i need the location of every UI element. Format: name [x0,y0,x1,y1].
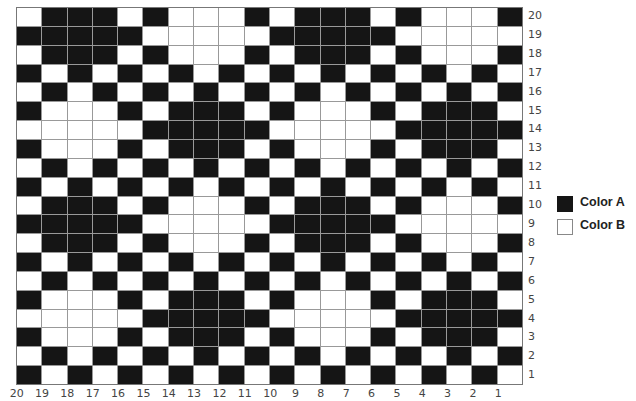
chart-cell [219,366,243,384]
chart-cell [143,159,167,177]
chart-cell [498,159,522,177]
chart-cell [219,310,243,328]
chart-cell [472,234,496,252]
chart-cell [194,215,218,233]
chart-cell [42,121,66,139]
chart-cell [219,347,243,365]
column-label: 19 [29,386,54,401]
chart-cell [93,159,117,177]
chart-cell [498,366,522,384]
chart-cell [245,328,269,346]
chart-cell [68,8,92,26]
row-label: 10 [528,196,552,215]
chart-cell [169,178,193,196]
chart-cell [498,121,522,139]
chart-cell [245,46,269,64]
chart-cell [42,215,66,233]
chart-cell [143,121,167,139]
chart-cell [68,291,92,309]
chart-cell [93,253,117,271]
chart-cell [422,8,446,26]
chart-cell [321,234,345,252]
chart-cell [396,234,420,252]
chart-cell [219,65,243,83]
chart-cell [447,102,471,120]
chart-cell [118,234,142,252]
chart-cell [245,215,269,233]
chart-cell [295,272,319,290]
chart-cell [68,366,92,384]
chart-cell [194,83,218,101]
chart-cell [194,366,218,384]
chart-cell [371,310,395,328]
chart-cell [118,178,142,196]
chart-cell [472,140,496,158]
chart-cell [219,83,243,101]
chart-cell [295,253,319,271]
chart-cell [93,46,117,64]
chart-cell [42,27,66,45]
chart-cell [371,140,395,158]
chart-cell [143,102,167,120]
column-label: 1 [486,386,511,401]
chart-cell [245,253,269,271]
chart-cell [68,65,92,83]
chart-cell [447,65,471,83]
chart-cell [371,253,395,271]
chart-cell [93,215,117,233]
chart-cell [295,234,319,252]
chart-cell [447,253,471,271]
chart-cell [194,178,218,196]
chart-cell [295,366,319,384]
chart-cell [143,328,167,346]
chart-cell [422,253,446,271]
chart-cell [245,310,269,328]
chart-cell [321,366,345,384]
chart-cell [169,65,193,83]
row-label: 1 [528,366,552,385]
chart-cell [118,159,142,177]
chart-cell [270,366,294,384]
chart-cell [346,253,370,271]
chart-cell [42,178,66,196]
chart-cell [245,272,269,290]
chart-cell [321,197,345,215]
chart-cell [270,121,294,139]
row-number-labels: 2019181716151413121110987654321 [528,7,552,385]
chart-cell [68,102,92,120]
chart-cell [143,178,167,196]
chart-cell [321,178,345,196]
chart-cell [321,83,345,101]
chart-cell [169,121,193,139]
chart-cell [346,272,370,290]
chart-cell [321,102,345,120]
chart-cell [422,215,446,233]
chart-cell [68,121,92,139]
chart-cell [118,215,142,233]
chart-cell [42,8,66,26]
chart-cell [498,272,522,290]
chart-cell [245,159,269,177]
chart-cell [396,65,420,83]
chart-cell [270,102,294,120]
chart-cell [447,347,471,365]
column-label: 15 [131,386,156,401]
chart-cell [447,272,471,290]
chart-cell [169,27,193,45]
chart-cell [93,328,117,346]
chart-cell [245,27,269,45]
chart-cell [194,8,218,26]
chart-cell [472,8,496,26]
chart-cell [118,27,142,45]
chart-cell [396,347,420,365]
chart-cell [118,272,142,290]
chart-cell [396,159,420,177]
chart-cell [270,215,294,233]
chart-cell [68,272,92,290]
chart-cell [295,178,319,196]
chart-cell [68,328,92,346]
chart-cell [396,46,420,64]
chart-cell [321,8,345,26]
color-b-swatch [557,219,573,235]
chart-cell [169,310,193,328]
